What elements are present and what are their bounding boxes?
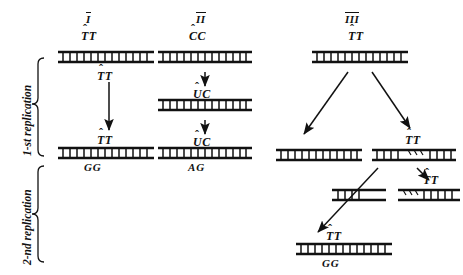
arrow-III-branch-left [304, 72, 348, 134]
dimer-label-III-result: TT [326, 230, 342, 242]
dimer-label-I-result: TT [97, 134, 113, 146]
column-label-I: I [86, 12, 91, 25]
dna-strand-III-branch-right [372, 150, 456, 160]
column-label-II: II [196, 12, 206, 25]
dimer-label-III-branch: TT [405, 134, 421, 146]
dimer-label-III-top: TT [348, 30, 364, 42]
dna-fragment-right [398, 190, 460, 200]
dimer-label-I-top: TT [81, 30, 97, 42]
stage-label-second-replication: 2-nd replication [22, 189, 34, 265]
brace-first-replication [32, 58, 44, 156]
dimer-label-III-fragment: TT [423, 174, 439, 186]
dna-fragment-left [332, 190, 386, 200]
replication-diagram [0, 0, 463, 275]
dimer-label-II-mid: UC [193, 88, 211, 100]
arrow-III-branch-right [372, 72, 410, 128]
dna-strand-III-top [312, 52, 408, 62]
dna-strand-II-mid [158, 100, 252, 110]
dna-strand-II-top [158, 52, 252, 62]
dna-strand-I-top [58, 52, 154, 62]
dimer-label-II-top: CC [189, 30, 206, 42]
stage-label-first-replication: 1-st replication [22, 85, 34, 156]
brace-second-replication [32, 166, 44, 262]
dimer-label-II-result: UC [193, 136, 211, 148]
dna-strands [58, 52, 460, 254]
basepair-label-I: GG [84, 162, 102, 173]
dna-strand-III-result [296, 244, 392, 254]
dna-strand-II-bottom [158, 148, 252, 158]
dimer-label-I-mid: TT [97, 70, 113, 82]
dna-strand-III-branch-left [276, 150, 362, 160]
flow-arrows [109, 72, 429, 232]
stage-braces [32, 58, 44, 262]
basepair-label-II: AG [188, 162, 205, 173]
column-label-III: III [345, 12, 359, 25]
dna-strand-I-bottom [58, 148, 154, 158]
basepair-label-III: GG [322, 258, 340, 269]
